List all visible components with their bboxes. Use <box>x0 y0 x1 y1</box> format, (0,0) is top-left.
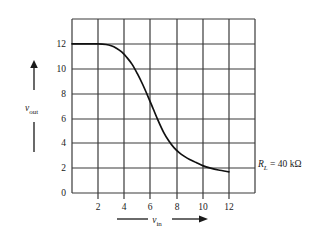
load-resistance-annotation: RL = 40 kΩ <box>257 159 302 172</box>
y-tick-label-10: 10 <box>57 64 67 74</box>
x-tick-label-6: 6 <box>148 202 153 212</box>
plot-grid <box>72 19 255 193</box>
y-tick-label-2: 2 <box>61 163 66 173</box>
y-axis-up-arrow-icon <box>30 60 38 68</box>
y-tick-label-4: 4 <box>61 138 66 148</box>
x-axis-ticks <box>98 193 229 199</box>
x-tick-labels: 2 4 6 8 10 12 <box>96 202 234 212</box>
y-tick-labels: 0 2 4 6 8 10 12 <box>57 39 67 198</box>
x-tick-label-2: 2 <box>96 202 101 212</box>
transfer-characteristic-chart: 2 4 6 8 10 12 0 2 4 6 8 10 12 vout <box>0 0 328 233</box>
load-resistance-label: RL = 40 kΩ <box>257 159 302 172</box>
x-tick-label-10: 10 <box>198 202 208 212</box>
x-axis-right-arrow-icon <box>199 215 208 222</box>
y-axis-title-group: vout <box>25 60 38 152</box>
y-axis-title: vout <box>25 103 38 116</box>
x-axis-title: vin <box>152 215 162 228</box>
y-tick-label-8: 8 <box>61 89 66 99</box>
x-tick-label-12: 12 <box>224 202 234 212</box>
x-axis-title-group: vin <box>117 215 208 228</box>
y-tick-label-0: 0 <box>61 188 66 198</box>
y-tick-label-12: 12 <box>57 39 67 49</box>
x-tick-label-8: 8 <box>175 202 180 212</box>
y-tick-label-6: 6 <box>61 114 66 124</box>
figure-container: 2 4 6 8 10 12 0 2 4 6 8 10 12 vout <box>0 0 328 233</box>
x-tick-label-4: 4 <box>122 202 127 212</box>
